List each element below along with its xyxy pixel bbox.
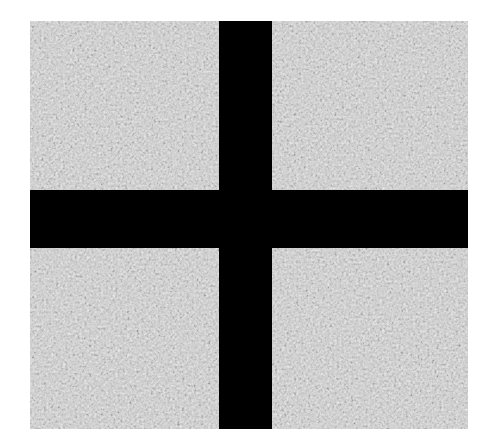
texture-specimen [30, 21, 468, 429]
cross-horizontal-bar [30, 190, 468, 248]
image-canvas [0, 0, 491, 438]
